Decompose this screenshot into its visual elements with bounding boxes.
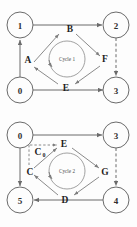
cycle-1-panel: Cycle 1 1 2 0 3 A B F E	[0, 0, 137, 114]
inner-edge-F-to-E	[75, 66, 100, 84]
cycle-2-panel: Cycle 2 0 3 5 4 C 0 E G D C	[0, 112, 137, 227]
edge-label-C: C	[27, 167, 34, 177]
cycle-2-svg: Cycle 2 0 3 5 4 C 0 E G D C	[0, 112, 137, 227]
inner-edge-A-to-B	[34, 34, 59, 62]
edge-label-C0: C	[35, 147, 42, 157]
node-1-label: 1	[18, 21, 23, 31]
inner-edge-B-to-F	[76, 34, 100, 56]
inner-edge-E-to-A	[34, 67, 58, 84]
node-3-label: 3	[114, 86, 119, 96]
edge-label-G: G	[101, 167, 109, 177]
node-3b-label: 3	[114, 131, 119, 141]
inner-edge-G-to-D	[74, 177, 99, 195]
cycle-1-label: Cycle 1	[59, 56, 75, 62]
edge-label-C0-subscript: 0	[43, 152, 46, 158]
node-0-label: 0	[18, 86, 23, 96]
node-2-label: 2	[114, 21, 119, 31]
node-0b-label: 0	[18, 131, 23, 141]
inner-edge-E-to-G	[72, 148, 99, 168]
edge-label-B: B	[67, 24, 74, 34]
edge-label-F: F	[102, 54, 108, 64]
cycle-1-svg: Cycle 1 1 2 0 3 A B F E	[0, 0, 137, 114]
node-4b-label: 4	[114, 196, 119, 206]
edge-label-D: D	[62, 195, 69, 205]
node-5b-label: 5	[18, 196, 23, 206]
inner-edge-D-to-C	[34, 175, 58, 195]
edge-label-A: A	[25, 55, 32, 65]
cycle-2-label: Cycle 2	[59, 168, 75, 174]
edge-label-E: E	[61, 139, 67, 149]
edge-label-E: E	[63, 83, 69, 93]
figure-root: Cycle 1 1 2 0 3 A B F E	[0, 0, 137, 227]
